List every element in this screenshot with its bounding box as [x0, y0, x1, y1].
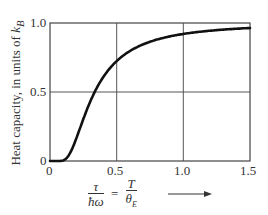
x-tick-1.0: 1.0	[174, 163, 190, 179]
x-arrow	[168, 191, 212, 197]
y-axis-label: Heat capacity, in units of kB	[8, 8, 26, 178]
y-tick-1.0: 1.0	[30, 15, 46, 31]
heat-capacity-curve	[50, 28, 250, 161]
x-tick-1.5: 1.5	[240, 163, 256, 179]
gridlines	[50, 23, 250, 161]
y-tick-0.5: 0.5	[30, 84, 46, 100]
fraction-tau-hbar-omega: τ ħω	[88, 180, 104, 209]
x-axis-label: τ ħω = T θE	[88, 177, 137, 211]
x-tick-0: 0	[46, 163, 53, 179]
fraction-T-theta-E: T θE	[126, 177, 137, 212]
